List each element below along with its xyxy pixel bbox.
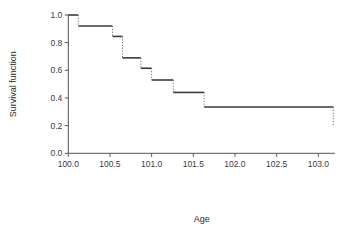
x-tick-label: 100.0 <box>58 159 80 169</box>
axes-group: 0.00.20.40.60.81.0100.0100.5101.0101.510… <box>50 10 335 169</box>
x-tick-label: 101.5 <box>183 159 205 169</box>
x-tick-label: 102.0 <box>224 159 246 169</box>
y-tick-label: 0.8 <box>50 38 62 48</box>
y-tick-label: 0.6 <box>50 65 62 75</box>
x-tick-label: 101.0 <box>141 159 163 169</box>
x-tick-label: 103.0 <box>308 159 330 169</box>
y-tick-label: 0.2 <box>50 121 62 131</box>
y-axis-title: Survival function <box>8 51 18 117</box>
y-tick-label: 1.0 <box>50 10 62 20</box>
x-tick-label: 102.5 <box>266 159 288 169</box>
survival-function-chart: 0.00.20.40.60.81.0100.0100.5101.0101.510… <box>0 0 355 230</box>
chart-canvas: 0.00.20.40.60.81.0100.0100.5101.0101.510… <box>0 0 355 230</box>
y-tick-label: 0.4 <box>50 93 62 103</box>
x-tick-label: 100.5 <box>99 159 121 169</box>
y-tick-label: 0.0 <box>50 148 62 158</box>
x-axis-title: Age <box>194 214 210 224</box>
series-group <box>68 15 333 126</box>
